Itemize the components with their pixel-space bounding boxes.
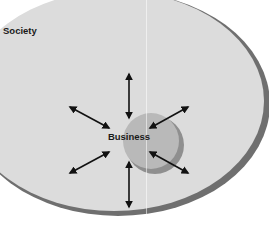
page-fold-line [146,0,147,244]
business-label: Business [107,131,151,142]
society-business-diagram: Society Business [0,0,269,244]
society-label: Society [3,25,37,36]
society-ellipse [0,0,269,216]
diagram-canvas [0,0,269,244]
